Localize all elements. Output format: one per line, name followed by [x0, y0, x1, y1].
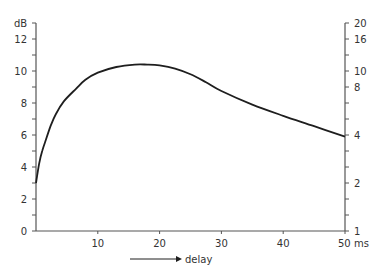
y-axis-unit-label: dB	[14, 18, 27, 29]
y-tick-label: 6	[21, 130, 27, 141]
y2-tick-label: 20	[354, 18, 367, 29]
y2-tick-label: 10	[354, 66, 367, 77]
x-tick-label: 10	[91, 238, 104, 249]
x-tick-label: 30	[215, 238, 228, 249]
y2-tick-label: 1	[354, 226, 360, 237]
y2-tick-label: 2	[354, 178, 360, 189]
axes	[36, 23, 345, 231]
y-tick-label: 0	[21, 226, 27, 237]
x-tick-label: 20	[153, 238, 166, 249]
arrow-head-icon	[176, 256, 182, 262]
y-tick-label: 8	[21, 98, 27, 109]
x-axis-label: delay	[185, 254, 212, 265]
y-tick-label: 12	[14, 34, 27, 45]
chart: 02468101212481016201020304050 ms delay d…	[0, 0, 386, 276]
y2-tick-label: 8	[354, 82, 360, 93]
gain-curve	[36, 64, 345, 183]
delay-arrow: delay	[130, 254, 212, 265]
y2-tick-label: 16	[354, 34, 367, 45]
x-tick-label: 40	[277, 238, 290, 249]
y-tick-label: 4	[21, 162, 27, 173]
y-tick-label: 10	[14, 66, 27, 77]
y-tick-label: 2	[21, 194, 27, 205]
y2-tick-label: 4	[354, 130, 360, 141]
ticks	[32, 23, 349, 234]
x-tick-label: 50 ms	[338, 238, 369, 249]
tick-labels: 02468101212481016201020304050 ms	[14, 18, 369, 249]
